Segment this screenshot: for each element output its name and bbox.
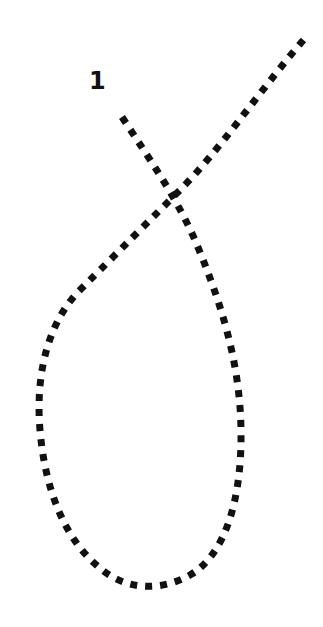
start-label: 1 <box>89 69 106 93</box>
diagram-canvas: 1 <box>0 0 323 627</box>
dotted-loop-path <box>0 0 323 627</box>
dotted-curve <box>39 37 306 586</box>
